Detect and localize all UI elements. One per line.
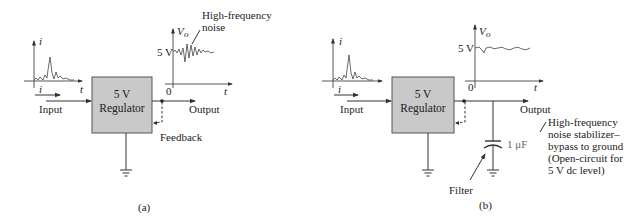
current-label: i — [338, 83, 341, 95]
ground-icon — [487, 170, 499, 176]
x-axis-label: t — [534, 81, 538, 93]
panel-a: i t i Input 5 V Regulator Output Feedbac… — [24, 9, 272, 214]
y-axis-label: i — [339, 35, 342, 47]
output-label-b: Output — [520, 103, 551, 115]
filter-pointer-arrow — [470, 154, 485, 180]
y-axis-subscript: o — [184, 29, 189, 39]
level-label: 5 V — [157, 46, 173, 58]
annotation-line: bypass to ground — [548, 140, 624, 152]
input-current-plot-b: i i — [322, 35, 382, 95]
input-label-a: Input — [39, 103, 62, 115]
filter-label: Filter — [449, 184, 473, 196]
output-voltage-plot-a: V o 5 V 0 t High-frequency noise — [157, 9, 272, 97]
regulator-voltage-label: 5 V — [415, 88, 432, 100]
origin-label: 0 — [166, 85, 172, 97]
y-axis-label: i — [39, 35, 42, 47]
ground-icon — [422, 170, 434, 176]
feedback-path — [456, 102, 465, 123]
output-label-a: Output — [189, 103, 220, 115]
origin-label: 0 — [468, 81, 474, 93]
current-spike-waveform — [333, 55, 373, 80]
annotation-line: High-frequency — [202, 9, 272, 21]
capacitance-label: 1 μF — [507, 138, 527, 150]
output-voltage-plot-b: V o 5 V 0 t — [458, 25, 543, 93]
annotation-line: 5 V dc level) — [548, 164, 605, 177]
feedback-path — [154, 102, 162, 123]
noisy-output-waveform — [173, 44, 214, 62]
feedback-label: Feedback — [160, 131, 203, 143]
annotation-line: High-frequency — [548, 116, 618, 128]
current-label: i — [39, 83, 42, 95]
input-label-b: Input — [340, 103, 363, 115]
panel-b: i i Input 5 V Regulator Output — [322, 25, 624, 212]
ground-icon — [120, 170, 132, 176]
regulator-voltage-label: 5 V — [114, 88, 131, 100]
regulator-name-label: Regulator — [99, 102, 145, 115]
regulator-name-label: Regulator — [400, 102, 446, 115]
annotation-line: noise — [202, 21, 225, 33]
feedback-arrow-icon — [153, 121, 157, 125]
input-current-plot-a: i t i — [24, 35, 84, 95]
level-label: 5 V — [458, 42, 474, 54]
y-axis-subscript: o — [486, 29, 491, 39]
regulator-diagram: i t i Input 5 V Regulator Output Feedbac… — [0, 0, 642, 224]
feedback-arrow-icon — [455, 121, 459, 125]
current-spike-waveform — [34, 57, 74, 80]
stabilized-output-waveform — [475, 47, 530, 53]
x-axis-label: t — [224, 85, 228, 97]
x-axis-label: t — [80, 83, 84, 95]
caption-b: (b) — [479, 199, 492, 212]
caption-a: (a) — [138, 201, 151, 214]
annotation-line: noise stabilizer– — [548, 128, 620, 140]
annotation-leader — [540, 122, 546, 132]
annotation-leader — [192, 30, 200, 44]
